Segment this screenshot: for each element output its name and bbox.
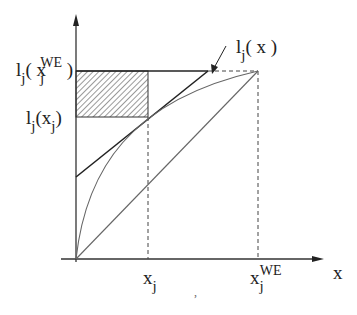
stray-mark: ,	[194, 286, 197, 298]
curve-label-pointer	[214, 46, 226, 68]
diagram-canvas	[0, 0, 357, 315]
pointer-arrowhead-icon	[211, 64, 218, 74]
label-xj-we: xjWE	[250, 268, 281, 287]
label-curve-lj: lj( x )	[236, 37, 277, 56]
label-lj-xwe: lj( xjWE )	[16, 60, 73, 79]
label-lj-xj: lj(xj)	[26, 108, 62, 127]
y-axis-arrowhead-icon	[73, 14, 79, 26]
hatched-area	[76, 71, 148, 117]
x-axis-arrowhead-icon	[312, 256, 324, 262]
label-xj: xj	[143, 268, 157, 287]
label-x-axis: x	[333, 263, 343, 282]
